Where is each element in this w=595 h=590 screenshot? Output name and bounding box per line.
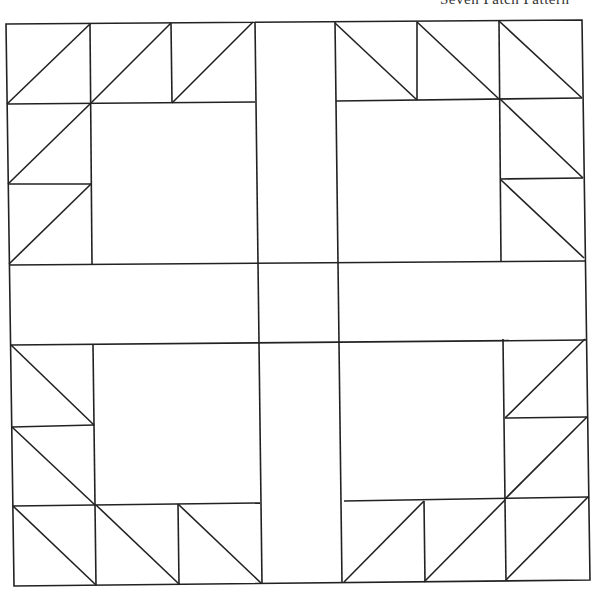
sashing-bottom-edge — [10, 340, 587, 345]
quadrant-bottom-left — [11, 345, 261, 585]
outer-border — [6, 20, 590, 586]
sashing-top-edge — [9, 261, 586, 265]
quilt-diagram — [0, 0, 595, 590]
quadrant-top-right — [335, 21, 584, 262]
sashing-right-edge — [335, 22, 342, 583]
quadrant-top-left — [7, 22, 255, 264]
sashing-left-edge — [255, 22, 262, 584]
quadrant-bottom-right — [344, 339, 588, 582]
